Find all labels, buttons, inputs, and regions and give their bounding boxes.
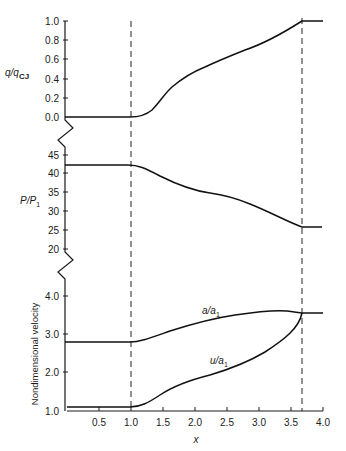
p-axis-label: P/P1 <box>20 195 40 208</box>
q-curve <box>65 21 323 117</box>
q-tick-label: 0.8 <box>45 35 59 46</box>
pressure-curve <box>65 165 322 227</box>
q-tick-label: 0.2 <box>45 93 59 104</box>
q-tick-label: 1.0 <box>45 16 59 27</box>
v-tick-label: 3.0 <box>45 329 59 340</box>
a-curve-label: a/a1 <box>202 305 220 318</box>
p-tick-label: 45 <box>48 150 60 161</box>
q-axis-label: q/qCJ <box>5 67 29 81</box>
q-tick-label: 0.0 <box>45 112 59 123</box>
x-tick-label: 2.0 <box>188 417 202 428</box>
three-panel-line-chart: 0.5 1.0 1.5 2.0 2.5 3.0 3.5 4.0 x 1.0 0.… <box>0 0 346 451</box>
x-axis: 0.5 1.0 1.5 2.0 2.5 3.0 3.5 4.0 x <box>67 407 330 445</box>
q-tick-label: 0.4 <box>45 74 59 85</box>
x-tick-label: 1.5 <box>156 417 170 428</box>
x-tick-label: 0.5 <box>92 417 106 428</box>
q-tick-label: 0.6 <box>45 54 59 65</box>
v-tick-label: 1.0 <box>45 406 59 417</box>
x-axis-label: x <box>193 434 200 445</box>
p-tick-label: 30 <box>48 206 60 217</box>
v-axis-label: Nondimensional velocity <box>29 303 40 406</box>
u-curve-label: u/a1 <box>210 355 228 368</box>
x-tick-label: 3.0 <box>252 417 266 428</box>
p-tick-label: 20 <box>48 244 60 255</box>
v-tick-label: 2.0 <box>45 367 59 378</box>
x-tick-label: 3.5 <box>284 417 298 428</box>
p-tick-label: 25 <box>48 225 60 236</box>
p-tick-label: 40 <box>48 168 60 179</box>
x-tick-label: 2.5 <box>220 417 234 428</box>
x-tick-label: 1.0 <box>124 417 138 428</box>
v-tick-label: 4.0 <box>45 291 59 302</box>
x-tick-label: 4.0 <box>316 417 330 428</box>
p-tick-label: 35 <box>48 187 60 198</box>
